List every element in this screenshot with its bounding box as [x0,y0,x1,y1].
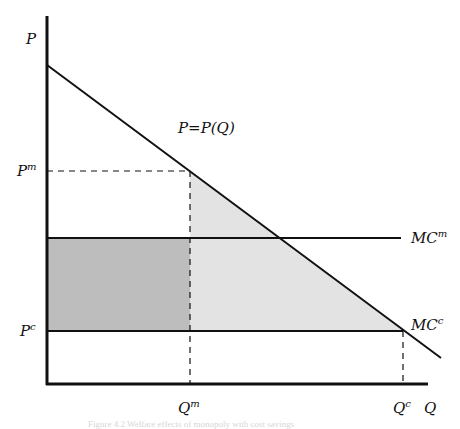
demand-label: P=P(Q) [177,119,235,137]
y-axis-label: P [25,30,37,48]
cost-saving-rectangle [47,238,190,331]
pc-label: Pc [19,321,36,340]
figure-caption: Figure 4.2 Welfare effects of monopoly w… [88,419,295,429]
mc-competitive-label: MCc [410,315,444,334]
x-axis-label: Q [424,399,436,417]
qc-label: Qc [393,398,411,417]
qm-label: Qm [178,398,200,417]
pm-label: Pm [16,161,37,180]
welfare-diagram: P Q P=P(Q) Pm Pc MCm MCc Qm Qc Figure 4.… [0,0,460,429]
mc-monopoly-label: MCm [410,228,447,247]
